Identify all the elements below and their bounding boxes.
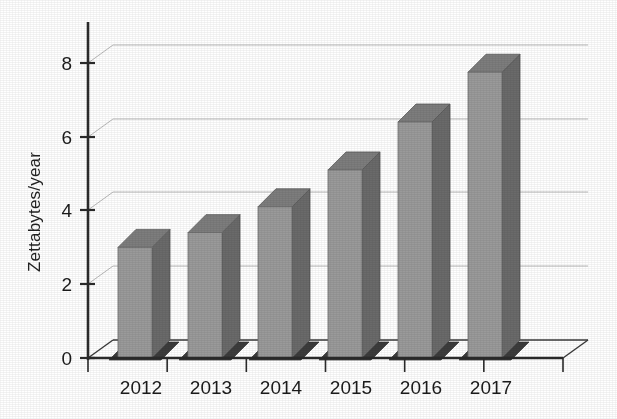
bar-side-face (292, 189, 310, 358)
bar-front-face (398, 122, 432, 358)
bar-group-2012 (109, 229, 179, 360)
bar-side-face (432, 104, 450, 358)
y-tick-label-4: 4 (61, 200, 72, 221)
y-axis: 0 2 4 6 8 Zettabytes/year (25, 22, 95, 369)
bars-layer (109, 54, 529, 360)
x-axis-label-2015: 2015 (330, 377, 372, 398)
x-axis-label-2017: 2017 (470, 377, 512, 398)
bar-front-face (118, 247, 152, 358)
bar-front-face (258, 207, 292, 358)
bar-side-face (362, 152, 380, 358)
y-tick-label-0: 0 (61, 348, 72, 369)
bar-side-face (152, 229, 170, 358)
y-tick-label-2: 2 (61, 274, 72, 295)
bar-group-2014 (249, 189, 319, 360)
bar-front-face (468, 72, 502, 358)
y-tick-label-6: 6 (61, 127, 72, 148)
x-axis: 201220132014201520162017 (88, 358, 563, 398)
chart-canvas: 0 2 4 6 8 Zettabytes/year 20122013201420… (0, 0, 617, 419)
x-axis-labels: 201220132014201520162017 (120, 377, 512, 398)
bar-group-2015 (319, 152, 389, 360)
x-axis-label-2012: 2012 (120, 377, 162, 398)
bar-group-2017 (459, 54, 529, 360)
x-axis-label-2013: 2013 (190, 377, 232, 398)
bar-side-face (502, 54, 520, 358)
bar-front-face (188, 233, 222, 358)
bar-group-2013 (179, 215, 249, 360)
bar-group-2016 (389, 104, 459, 360)
y-tick-label-8: 8 (61, 53, 72, 74)
y-axis-title: Zettabytes/year (25, 152, 44, 272)
x-axis-label-2016: 2016 (400, 377, 442, 398)
x-axis-label-2014: 2014 (260, 377, 303, 398)
bar-chart: 0 2 4 6 8 Zettabytes/year 20122013201420… (0, 0, 617, 419)
bar-front-face (328, 170, 362, 358)
bar-side-face (222, 215, 240, 358)
